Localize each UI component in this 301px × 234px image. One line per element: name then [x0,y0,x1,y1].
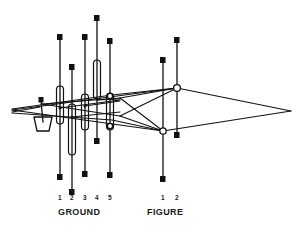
diagram-canvas: 1 2 3 4 5 1 2 GROUND FIGURE [0,0,301,234]
left-vanishing-rays [12,88,177,131]
ground-tick-4: 4 [95,194,99,201]
figure-group-label: FIGURE [147,207,183,217]
right-vanishing-rays [163,88,291,131]
ground-tick-1: 1 [58,194,62,201]
perspective-diagram-svg [0,0,301,234]
ground-tick-5: 5 [108,194,112,201]
ground-tick-2: 2 [70,194,74,201]
ground-group-label: GROUND [58,207,100,217]
figure-tick-1: 1 [161,194,165,201]
page-caption [22,225,280,234]
ground-tick-3: 3 [83,194,87,201]
figure-tick-2: 2 [175,194,179,201]
ground-plane-edges [12,88,177,131]
